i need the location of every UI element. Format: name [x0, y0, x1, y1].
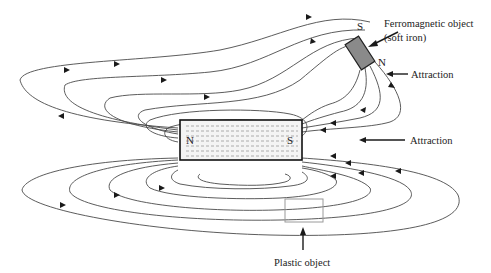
iron-south-label: S	[357, 20, 363, 32]
ferromagnetic-label-line1: Ferromagnetic object	[384, 18, 474, 29]
magnet-north-label: N	[186, 134, 194, 146]
magnet-south-label: S	[287, 134, 293, 146]
bar-magnet: N S	[180, 120, 302, 160]
field-lines-iron-to-magnet	[302, 62, 401, 132]
ferromagnetic-label-group: Ferromagnetic object (soft iron)	[368, 18, 474, 47]
iron-attraction-indicator: Attraction	[386, 69, 454, 80]
magnet-attraction-label: Attraction	[410, 135, 453, 146]
plastic-object-label: Plastic object	[274, 257, 330, 268]
ferromagnetic-label-line2: (soft iron)	[384, 32, 427, 44]
iron-attraction-label: Attraction	[411, 69, 454, 80]
magnet-attraction-indicator: Attraction	[359, 135, 453, 146]
magnetic-field-diagram: N S S N Ferromagnetic object (soft iron)…	[0, 0, 491, 273]
ferromagnetic-object: S N	[345, 20, 386, 70]
field-lines-lower	[22, 158, 459, 235]
iron-north-label: N	[378, 56, 386, 68]
field-lines-to-iron	[20, 19, 370, 134]
